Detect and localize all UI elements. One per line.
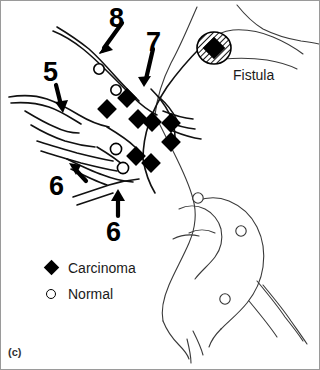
callout-label-5: 5 (43, 59, 57, 86)
legend-item-carcinoma: Carcinoma (43, 259, 136, 276)
legend-label-normal: Normal (68, 286, 113, 302)
legend-label-carcinoma: Carcinoma (68, 260, 136, 276)
legend-item-normal: Normal (43, 285, 136, 302)
callout-label-6-upper: 6 (49, 173, 63, 200)
figure-panel: 8 7 5 6 6 Fistula Carcinoma Normal (c) (0, 0, 320, 370)
legend: Carcinoma Normal (43, 259, 136, 302)
circle-icon (43, 289, 59, 299)
callout-label-7: 7 (146, 29, 160, 56)
callout-label-8: 8 (109, 5, 123, 32)
callout-label-6-lower: 6 (106, 219, 120, 246)
fistula-marker (197, 32, 231, 64)
fistula-label: Fistula (233, 67, 274, 83)
diamond-icon (43, 262, 59, 273)
panel-label: (c) (8, 346, 21, 358)
